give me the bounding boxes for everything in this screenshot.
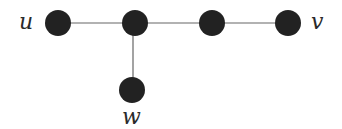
nodes <box>45 10 301 103</box>
node-a <box>122 10 148 36</box>
node-v <box>275 10 301 36</box>
label-w: w <box>122 104 141 129</box>
label-v: v <box>311 9 324 34</box>
node-u <box>45 10 71 36</box>
graph-diagram: u v w <box>0 0 342 129</box>
node-b <box>199 10 225 36</box>
label-u: u <box>19 9 33 34</box>
edges <box>58 23 288 90</box>
node-w <box>119 77 145 103</box>
graph-canvas: u v w <box>0 0 342 129</box>
